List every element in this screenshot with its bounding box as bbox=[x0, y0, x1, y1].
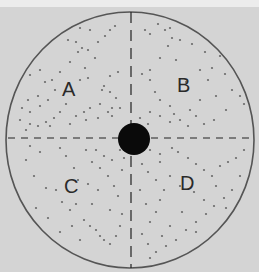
colony-dot bbox=[187, 157, 189, 159]
colony-dot bbox=[231, 189, 233, 191]
colony-dot bbox=[203, 169, 205, 171]
dish-svg: A B C D bbox=[0, 0, 259, 272]
colony-dot bbox=[49, 125, 51, 127]
colony-dot bbox=[77, 51, 79, 53]
colony-dot bbox=[169, 27, 171, 29]
colony-dot bbox=[53, 117, 55, 119]
colony-dot bbox=[195, 221, 197, 223]
colony-dot bbox=[45, 121, 47, 123]
colony-dot bbox=[161, 235, 163, 237]
colony-dot bbox=[75, 41, 77, 43]
colony-dot bbox=[219, 55, 221, 57]
colony-dot bbox=[109, 75, 111, 77]
colony-dot bbox=[149, 69, 151, 71]
colony-dot bbox=[61, 201, 63, 203]
colony-dot bbox=[91, 161, 93, 163]
colony-dot bbox=[21, 107, 23, 109]
colony-dot bbox=[169, 105, 171, 107]
colony-dot bbox=[195, 231, 197, 233]
colony-dot bbox=[149, 111, 151, 113]
colony-dot bbox=[69, 209, 71, 211]
colony-dot bbox=[83, 219, 85, 221]
colony-dot bbox=[159, 99, 161, 101]
colony-dot bbox=[29, 74, 31, 76]
colony-dot bbox=[59, 231, 61, 233]
colony-dot bbox=[224, 73, 226, 75]
colony-dot bbox=[167, 45, 169, 47]
colony-dot bbox=[243, 149, 245, 151]
colony-dot bbox=[181, 211, 183, 213]
colony-dot bbox=[65, 103, 67, 105]
colony-dot bbox=[85, 119, 87, 121]
colony-dot bbox=[211, 175, 213, 177]
colony-dot bbox=[243, 103, 245, 105]
colony-dot bbox=[29, 123, 31, 125]
colony-dot bbox=[171, 37, 173, 39]
colony-dot bbox=[159, 161, 161, 163]
colony-dot bbox=[223, 197, 225, 199]
colony-dot bbox=[235, 157, 237, 159]
petri-dish-diagram: A B C D bbox=[0, 0, 259, 272]
colony-dot bbox=[95, 149, 97, 151]
colony-dot bbox=[141, 73, 143, 75]
colony-dot bbox=[39, 69, 41, 71]
colony-dot bbox=[155, 179, 157, 181]
colony-dot bbox=[164, 29, 166, 31]
colony-dot bbox=[47, 217, 49, 219]
colony-dot bbox=[179, 39, 181, 41]
colony-dot bbox=[87, 49, 89, 51]
colony-dot bbox=[69, 61, 71, 63]
colony-dot bbox=[139, 117, 141, 119]
colony-dot bbox=[89, 29, 91, 31]
colony-dot bbox=[97, 41, 99, 43]
colony-dot bbox=[204, 51, 206, 53]
colony-dot bbox=[81, 47, 83, 49]
colony-dot bbox=[104, 35, 106, 37]
quadrant-label-a: A bbox=[62, 78, 76, 100]
colony-dot bbox=[155, 211, 157, 213]
colony-dot bbox=[159, 115, 161, 117]
colony-dot bbox=[203, 199, 205, 201]
colony-dot bbox=[173, 113, 175, 115]
colony-dot bbox=[114, 25, 116, 27]
colony-dot bbox=[155, 251, 157, 253]
colony-dot bbox=[203, 123, 205, 125]
colony-dot bbox=[109, 243, 111, 245]
colony-dot bbox=[33, 175, 35, 177]
colony-dot bbox=[111, 159, 113, 161]
colony-dot bbox=[103, 155, 105, 157]
quadrant-label-d: D bbox=[180, 172, 194, 194]
colony-dot bbox=[121, 169, 123, 171]
colony-dot bbox=[147, 171, 149, 173]
colony-dot bbox=[19, 119, 21, 121]
colony-dot bbox=[199, 69, 201, 71]
colony-dot bbox=[79, 27, 81, 29]
colony-dot bbox=[225, 207, 227, 209]
colony-dot bbox=[84, 67, 86, 69]
colony-dot bbox=[91, 203, 93, 205]
colony-dot bbox=[119, 107, 121, 109]
colony-dot bbox=[59, 147, 61, 149]
colony-dot bbox=[147, 123, 149, 125]
colony-dot bbox=[191, 43, 193, 45]
colony-dot bbox=[87, 77, 89, 79]
colony-dot bbox=[121, 213, 123, 215]
colony-dot bbox=[117, 71, 119, 73]
colony-dot bbox=[103, 85, 105, 87]
colony-dot bbox=[149, 221, 151, 223]
colony-dot bbox=[179, 119, 181, 121]
colony-dot bbox=[225, 109, 227, 111]
colony-dot bbox=[69, 123, 71, 125]
colony-dot bbox=[107, 111, 109, 113]
colony-dot bbox=[144, 29, 146, 31]
colony-dot bbox=[219, 165, 221, 167]
colony-dot bbox=[107, 175, 109, 177]
colony-dot bbox=[29, 111, 31, 113]
colony-dot bbox=[59, 111, 61, 113]
colony-dot bbox=[97, 117, 99, 119]
colony-dot bbox=[109, 29, 111, 31]
colony-dot bbox=[55, 189, 57, 191]
colony-dot bbox=[119, 149, 121, 151]
colony-dot bbox=[213, 205, 215, 207]
colony-dot bbox=[149, 79, 151, 81]
